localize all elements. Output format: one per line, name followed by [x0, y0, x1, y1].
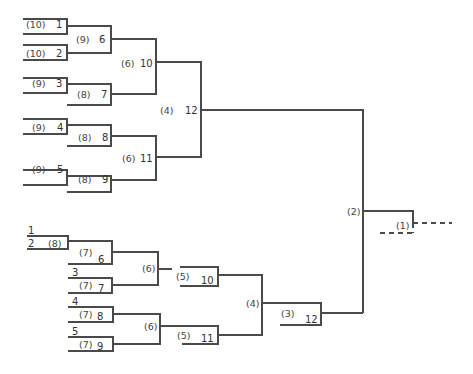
match-id: 10 [140, 58, 153, 69]
match-rank: (6) [122, 153, 135, 164]
match-rank: (8) [78, 174, 91, 185]
match-rank: (6) [144, 321, 157, 332]
match-rank: (7) [79, 280, 92, 291]
match-rank: (7) [79, 339, 92, 350]
match-id: 11 [140, 153, 153, 164]
match-rank: (8) [77, 89, 90, 100]
match-rank: (9) [76, 34, 89, 45]
entry-label: 3 [72, 267, 78, 278]
bracket-line [201, 110, 363, 313]
match-rank: (4) [160, 105, 173, 116]
final-rank: (1) [396, 220, 409, 231]
match-id: 7 [101, 89, 107, 100]
match-id: 12 [305, 314, 318, 325]
entry-rank: (8) [48, 238, 61, 249]
bracket-diagram: (10) 1 (10) 2 (9) 3 (9) 4 (9) 5 (9) 6 (8… [0, 0, 473, 374]
match-rank: (7) [79, 309, 92, 320]
match-id: 12 [185, 105, 198, 116]
match-rank: (3) [281, 308, 294, 319]
seed-rank: (9) [32, 122, 45, 133]
entry-label: 2 [56, 48, 62, 59]
entry-label: 5 [57, 164, 63, 175]
match-id: 6 [99, 34, 105, 45]
entry-label: 2 [28, 238, 34, 249]
match-rank: (5) [176, 271, 189, 282]
match-rank: (6) [142, 263, 155, 274]
entry-label: 1 [28, 225, 34, 236]
match-id: 8 [102, 132, 108, 143]
match-rank: (6) [121, 58, 134, 69]
seed-rank: (10) [26, 48, 46, 59]
entry-label: 3 [56, 78, 62, 89]
match-rank: (5) [177, 330, 190, 341]
entry-label: 5 [72, 326, 78, 337]
lower-bracket: 1 2 (8) 3 4 5 (7) 6 (7) 7 (7) 8 (7) 9 (6… [27, 225, 363, 352]
match-id: 6 [98, 254, 104, 265]
entry-label: 1 [56, 19, 62, 30]
match-id: 9 [102, 174, 108, 185]
semifinal-rank: (2) [347, 206, 360, 217]
entry-label: 4 [72, 296, 78, 307]
entry-label: 4 [57, 122, 63, 133]
match-id: 9 [97, 341, 103, 352]
match-id: 7 [98, 283, 104, 294]
match-rank: (8) [78, 132, 91, 143]
match-id: 11 [201, 333, 214, 344]
seed-rank: (9) [32, 164, 45, 175]
match-rank: (4) [246, 298, 259, 309]
match-id: 10 [201, 275, 214, 286]
seed-rank: (10) [26, 19, 46, 30]
match-rank: (7) [79, 247, 92, 258]
seed-rank: (9) [32, 78, 45, 89]
match-id: 8 [97, 311, 103, 322]
